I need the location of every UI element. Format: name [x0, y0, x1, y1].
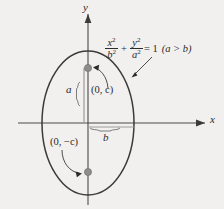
equation-fraction-y: y2 a2 [130, 37, 143, 60]
equation-numerator-x: x2 [105, 37, 117, 48]
semi-minor-axis-label: b [103, 132, 109, 143]
equation-numerator-y: y2 [130, 37, 142, 48]
y-axis-arrowhead [85, 14, 92, 23]
focus-upper-arrowhead [93, 65, 99, 71]
figure-canvas [0, 0, 224, 209]
equation-plus-operator: + [121, 43, 127, 54]
equation-condition: (a > b) [162, 43, 192, 54]
semi-major-axis-label: a [66, 84, 72, 95]
equation-denominator-a-exponent: 2 [137, 48, 141, 56]
y-axis-label: y [83, 2, 88, 13]
focus-lower-arrowhead [76, 171, 82, 177]
ellipse-equation: x2 b2 + y2 a2 = 1 (a > b) [104, 37, 192, 60]
equation-fraction-x: x2 b2 [105, 37, 118, 60]
focus-point-lower [84, 168, 91, 175]
equation-numerator-x-exponent: 2 [112, 36, 116, 44]
equation-numerator-y-exponent: 2 [137, 36, 141, 44]
equation-denominator-b-exponent: 2 [112, 48, 116, 56]
focus-upper-label: (0, c) [91, 85, 113, 96]
focus-lower-leader-arrow [62, 150, 80, 174]
focus-lower-label: (0, −c) [50, 137, 78, 148]
equation-denominator-b: b2 [105, 49, 118, 60]
x-axis-label: x [210, 114, 215, 125]
x-axis-arrowhead [196, 120, 205, 127]
equation-denominator-a: a2 [130, 49, 143, 60]
semi-major-brace [77, 82, 81, 106]
ellipse-figure: y x a b (0, c) (0, −c) x2 b2 + y2 a2 = 1… [0, 0, 224, 209]
equation-equals-one: = 1 [144, 43, 158, 54]
focus-point-upper [84, 64, 91, 71]
